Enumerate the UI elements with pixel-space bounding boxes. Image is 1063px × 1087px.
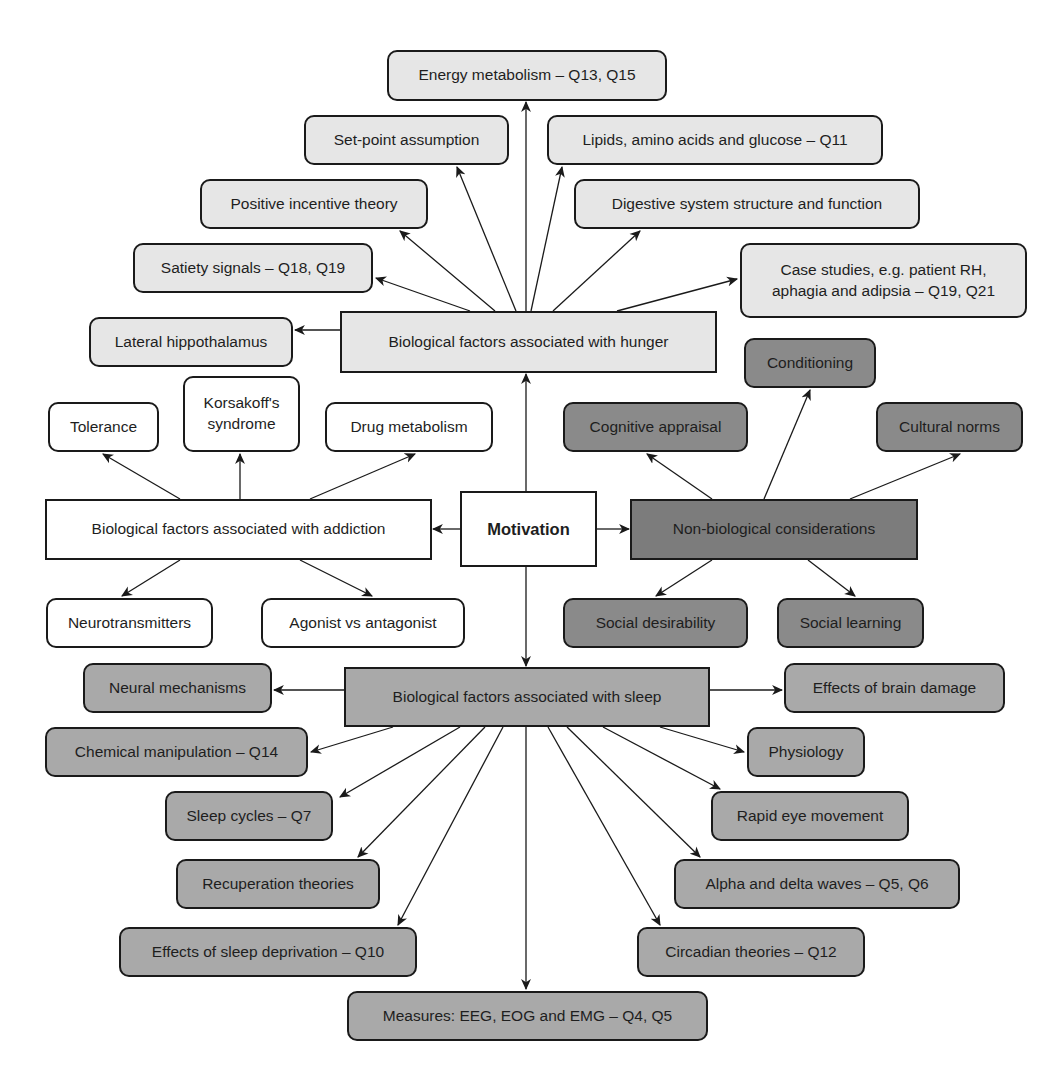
node-label: Lipids, amino acids and glucose – Q11 — [582, 130, 847, 151]
node-sleep: Biological factors associated with sleep — [344, 667, 710, 727]
node-cultural: Cultural norms — [876, 402, 1023, 452]
node-hunger: Biological factors associated with hunge… — [340, 311, 717, 373]
arrow-hunger-to-satiety — [376, 278, 470, 311]
node-positive: Positive incentive theory — [200, 179, 428, 229]
node-label: Tolerance — [70, 417, 137, 438]
node-conditioning: Conditioning — [744, 338, 876, 388]
node-rem: Rapid eye movement — [711, 791, 909, 841]
node-label: Drug metabolism — [350, 417, 467, 438]
node-measures: Measures: EEG, EOG and EMG – Q4, Q5 — [347, 991, 708, 1041]
node-cognitive: Cognitive appraisal — [563, 402, 748, 452]
node-brainDamage: Effects of brain damage — [784, 663, 1005, 713]
arrow-hunger-to-lipids — [531, 167, 562, 311]
node-addiction: Biological factors associated with addic… — [45, 499, 432, 560]
node-label: Lateral hippothalamus — [115, 332, 268, 353]
arrow-sleep-to-physiology — [660, 727, 744, 752]
arrow-sleep-to-recuperation — [358, 727, 485, 857]
node-tolerance: Tolerance — [48, 402, 159, 452]
node-label: Chemical manipulation – Q14 — [75, 742, 278, 763]
arrow-addiction-to-neurotransmitters — [122, 560, 180, 596]
node-lateral: Lateral hippothalamus — [89, 317, 293, 367]
node-label: Motivation — [487, 518, 570, 540]
node-recuperation: Recuperation theories — [176, 859, 380, 909]
node-label: Sleep cycles – Q7 — [187, 806, 312, 827]
node-label: Digestive system structure and function — [612, 194, 883, 215]
node-label: Rapid eye movement — [737, 806, 883, 827]
arrow-nonbio-to-socialdesirability — [656, 560, 712, 596]
motivation-mind-map: MotivationBiological factors associated … — [0, 0, 1063, 1087]
node-label: Neurotransmitters — [68, 613, 191, 634]
node-physiology: Physiology — [747, 727, 865, 777]
arrow-sleep-to-sleepcycles — [340, 727, 460, 797]
node-label: Effects of brain damage — [813, 678, 976, 699]
arrow-nonbio-to-cognitive — [647, 454, 712, 499]
node-label: Neural mechanisms — [109, 678, 246, 699]
arrow-sleep-to-alpha — [567, 727, 700, 857]
node-label: Social desirability — [596, 613, 716, 634]
node-chemical: Chemical manipulation – Q14 — [45, 727, 308, 777]
node-circadian: Circadian theories – Q12 — [637, 927, 865, 977]
node-setpoint: Set-point assumption — [304, 115, 509, 165]
node-label: Satiety signals – Q18, Q19 — [161, 258, 345, 279]
node-deprivation: Effects of sleep deprivation – Q10 — [119, 927, 417, 977]
node-sociallearning: Social learning — [777, 598, 924, 648]
arrow-nonbio-to-conditioning — [764, 390, 810, 499]
node-alpha: Alpha and delta waves – Q5, Q6 — [674, 859, 960, 909]
node-label: Biological factors associated with sleep — [393, 687, 662, 708]
arrow-hunger-to-positive — [400, 231, 495, 311]
node-sleepcycles: Sleep cycles – Q7 — [165, 791, 333, 841]
arrow-hunger-to-digestive — [553, 231, 640, 311]
arrow-nonbio-to-sociallearning — [808, 560, 855, 596]
node-energy: Energy metabolism – Q13, Q15 — [387, 50, 667, 101]
arrow-nonbio-to-cultural — [850, 454, 960, 499]
arrow-hunger-to-casestudies — [617, 279, 737, 311]
node-satiety: Satiety signals – Q18, Q19 — [133, 243, 373, 293]
node-label: Cultural norms — [899, 417, 1000, 438]
node-label: Conditioning — [767, 353, 853, 374]
arrow-sleep-to-rem — [603, 727, 720, 789]
arrow-addiction-to-tolerance — [103, 454, 180, 499]
node-label: Korsakoff's syndrome — [204, 393, 280, 435]
node-label: Effects of sleep deprivation – Q10 — [152, 942, 384, 963]
node-label: Agonist vs antagonist — [289, 613, 436, 634]
node-neurotransmitters: Neurotransmitters — [46, 598, 213, 648]
arrow-sleep-to-chemical — [311, 727, 393, 752]
node-label: Measures: EEG, EOG and EMG – Q4, Q5 — [383, 1006, 672, 1027]
node-label: Circadian theories – Q12 — [665, 942, 836, 963]
arrow-addiction-to-agonist — [300, 560, 372, 596]
node-label: Biological factors associated with addic… — [92, 519, 386, 540]
node-label: Biological factors associated with hunge… — [388, 332, 668, 353]
node-label: Physiology — [769, 742, 844, 763]
node-label: Energy metabolism – Q13, Q15 — [418, 65, 635, 86]
arrow-sleep-to-circadian — [548, 727, 660, 925]
node-neural: Neural mechanisms — [83, 663, 272, 713]
node-korsakoff: Korsakoff's syndrome — [183, 376, 300, 452]
node-casestudies: Case studies, e.g. patient RH, aphagia a… — [740, 243, 1027, 318]
node-motivation: Motivation — [460, 491, 597, 567]
node-label: Cognitive appraisal — [590, 417, 722, 438]
arrow-sleep-to-deprivation — [398, 727, 503, 925]
node-label: Social learning — [800, 613, 902, 634]
node-digestive: Digestive system structure and function — [574, 179, 920, 229]
node-label: Set-point assumption — [334, 130, 480, 151]
node-label: Positive incentive theory — [230, 194, 397, 215]
arrow-addiction-to-drugmetabolism — [310, 454, 415, 499]
node-label: Case studies, e.g. patient RH, aphagia a… — [772, 260, 995, 302]
node-nonbio: Non-biological considerations — [630, 499, 918, 560]
node-label: Recuperation theories — [202, 874, 354, 895]
node-label: Alpha and delta waves – Q5, Q6 — [705, 874, 928, 895]
node-drugmetabolism: Drug metabolism — [325, 402, 493, 452]
node-agonist: Agonist vs antagonist — [261, 598, 465, 648]
node-lipids: Lipids, amino acids and glucose – Q11 — [547, 115, 883, 165]
arrow-hunger-to-setpoint — [457, 167, 516, 311]
node-socialdesirability: Social desirability — [563, 598, 748, 648]
node-label: Non-biological considerations — [673, 519, 875, 540]
